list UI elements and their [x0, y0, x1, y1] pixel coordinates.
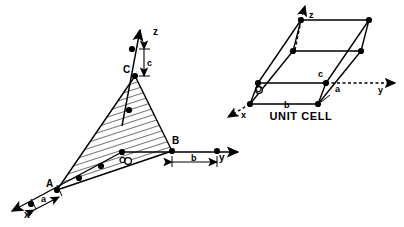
- vertex-label-A: A: [46, 178, 53, 189]
- dimension-label-c: c: [147, 58, 152, 68]
- unit-cell-label-b: b: [284, 100, 290, 110]
- unit-cell-edges: [250, 20, 369, 104]
- unit-cell-vertices: [247, 17, 372, 107]
- unit-cell-label-a: a: [335, 84, 341, 94]
- figure-svg: z y x O: [0, 0, 404, 227]
- origin-text-right: O: [255, 84, 262, 94]
- hatched-plane-ABC: [57, 76, 172, 190]
- vertex-label-C: C: [123, 64, 130, 75]
- dimension-label-b: b: [191, 153, 197, 163]
- unit-cell-z-label: z: [309, 10, 314, 20]
- right-diagram-unit-cell: O z y x b a c UNIT CELL: [228, 6, 395, 122]
- dimension-label-a: a: [41, 194, 47, 204]
- y-axis-label: y: [219, 152, 225, 163]
- x-axis: [12, 152, 122, 211]
- left-diagram: z y x O: [12, 26, 238, 220]
- z-axis-label: z: [153, 26, 158, 37]
- unit-cell-x-label: x: [241, 110, 246, 120]
- unit-cell-z-axis: [295, 6, 305, 50]
- crystallography-figure: z y x O: [0, 0, 404, 227]
- vertex-label-B: B: [172, 135, 179, 146]
- x-axis-label: x: [24, 209, 30, 220]
- unit-cell-y-label: y: [378, 85, 383, 95]
- unit-cell-label-c: c: [318, 69, 323, 79]
- unit-cell-caption: UNIT CELL: [270, 110, 333, 122]
- origin-text-left: O: [119, 155, 126, 165]
- unit-cell-x-axis: [228, 104, 250, 117]
